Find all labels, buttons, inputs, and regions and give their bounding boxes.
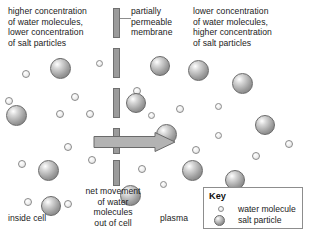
membrane-leader-line <box>120 18 131 19</box>
water-molecule <box>176 105 184 113</box>
water-molecule <box>64 143 72 151</box>
water-molecule <box>22 70 30 78</box>
water-molecule <box>192 146 200 154</box>
key-legend: Key water molecule salt particle <box>203 187 303 229</box>
water-molecule <box>96 60 103 67</box>
water-molecule <box>252 152 260 160</box>
salt-particle <box>126 93 146 113</box>
salt-particle <box>150 56 170 76</box>
salt-particle <box>232 73 253 94</box>
salt-particle <box>188 60 209 81</box>
membrane-segment <box>113 48 120 78</box>
water-molecule <box>5 97 13 105</box>
net-movement-label: net movement of water molecules out of c… <box>76 186 150 228</box>
salt-particle <box>6 105 27 126</box>
water-molecule <box>215 132 222 139</box>
water-molecule <box>215 103 222 110</box>
water-molecule <box>160 181 167 188</box>
right-region-description: lower concentration of water molecules, … <box>193 6 272 48</box>
water-molecule-icon <box>218 206 224 212</box>
membrane-segment <box>113 88 120 118</box>
water-molecule <box>64 200 72 208</box>
key-item-salt-particle-label: salt particle <box>238 215 281 225</box>
salt-particle <box>182 160 203 181</box>
water-molecule <box>88 156 96 164</box>
water-molecule <box>24 198 32 206</box>
salt-particle <box>38 160 59 181</box>
salt-particle-icon <box>214 215 225 226</box>
membrane-segment <box>113 8 120 38</box>
osmosis-diagram: higher concentration of water molecules,… <box>0 0 310 236</box>
key-item-water-molecule-label: water molecule <box>238 204 296 214</box>
plasma-label: plasma <box>160 213 188 224</box>
inside-cell-label: inside cell <box>8 213 46 224</box>
net-movement-arrow <box>93 131 177 153</box>
water-molecule <box>71 93 79 101</box>
water-molecule <box>56 110 64 118</box>
water-molecule <box>86 110 94 118</box>
membrane-label: partially permeable membrane <box>131 6 172 38</box>
water-molecule <box>18 160 26 168</box>
water-molecule <box>148 112 155 119</box>
salt-particle <box>255 115 275 135</box>
water-molecule <box>138 165 146 173</box>
key-title: Key <box>209 191 226 201</box>
salt-particle <box>50 58 71 79</box>
left-region-description: higher concentration of water molecules,… <box>8 6 87 48</box>
water-molecule <box>285 140 293 148</box>
membrane-segment <box>113 160 120 186</box>
arrow-shape <box>94 133 175 152</box>
